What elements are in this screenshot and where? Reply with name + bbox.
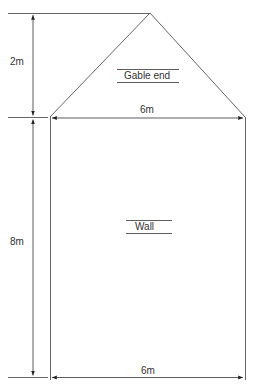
wall-height-label: 8m [10, 236, 24, 248]
gable-wall-diagram [0, 0, 253, 387]
gable-end-label: Gable end [124, 70, 170, 82]
gable-height-label: 2m [10, 56, 24, 68]
wall-label: Wall [135, 221, 154, 233]
gable-outline [50, 13, 245, 117]
gable-width-label: 6m [140, 104, 154, 116]
wall-width-label: 6m [141, 365, 155, 377]
